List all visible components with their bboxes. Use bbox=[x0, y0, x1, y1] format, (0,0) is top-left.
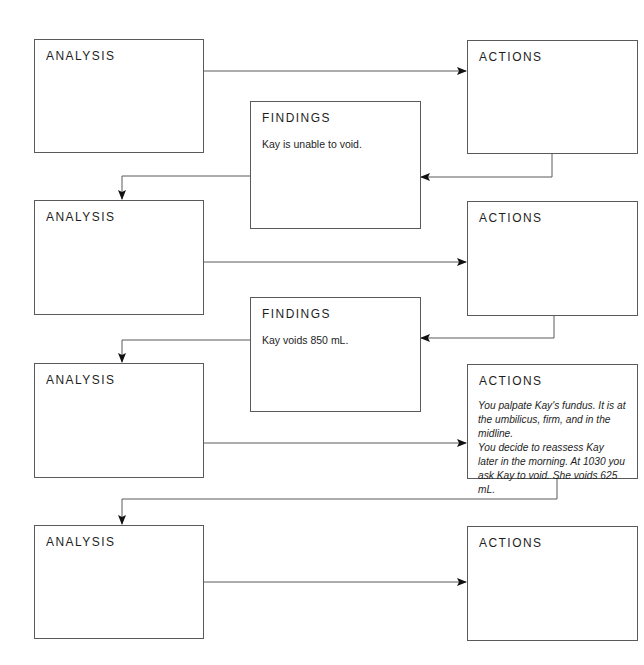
actions-title: ACTIONS bbox=[479, 373, 542, 388]
findings-title: FINDINGS bbox=[262, 306, 331, 321]
findings-text: Kay is unable to void. bbox=[262, 137, 412, 151]
analysis-title: ANALYSIS bbox=[46, 534, 115, 549]
actions-text-line: ask Kay to void. She voids 625 mL. bbox=[478, 469, 629, 497]
analysis-box-1: ANALYSIS bbox=[34, 39, 204, 153]
actions-text-line: later in the morning. At 1030 you bbox=[478, 455, 629, 469]
analysis-box-3: ANALYSIS bbox=[34, 363, 204, 478]
actions-title: ACTIONS bbox=[479, 535, 542, 550]
analysis-title: ANALYSIS bbox=[46, 48, 115, 63]
actions-box-2: ACTIONS bbox=[467, 201, 638, 316]
findings-box-2: FINDINGS Kay voids 850 mL. bbox=[250, 297, 421, 412]
findings-title: FINDINGS bbox=[262, 110, 331, 125]
actions-text-line: the umbilicus, firm, and in the midline. bbox=[478, 413, 629, 441]
actions-text-line: You palpate Kay's fundus. It is at bbox=[478, 399, 629, 413]
analysis-title: ANALYSIS bbox=[46, 209, 115, 224]
actions-text: You palpate Kay's fundus. It is at the u… bbox=[478, 399, 629, 497]
actions-box-4: ACTIONS bbox=[467, 526, 638, 641]
actions-text-line: You decide to reassess Kay bbox=[478, 441, 629, 455]
analysis-box-2: ANALYSIS bbox=[34, 200, 204, 315]
actions-title: ACTIONS bbox=[479, 210, 542, 225]
findings-text: Kay voids 850 mL. bbox=[262, 333, 412, 347]
actions-title: ACTIONS bbox=[479, 49, 542, 64]
actions-box-1: ACTIONS bbox=[467, 40, 638, 154]
analysis-box-4: ANALYSIS bbox=[34, 525, 204, 639]
findings-box-1: FINDINGS Kay is unable to void. bbox=[250, 101, 421, 229]
actions-box-3: ACTIONS You palpate Kay's fundus. It is … bbox=[467, 364, 638, 479]
analysis-title: ANALYSIS bbox=[46, 372, 115, 387]
